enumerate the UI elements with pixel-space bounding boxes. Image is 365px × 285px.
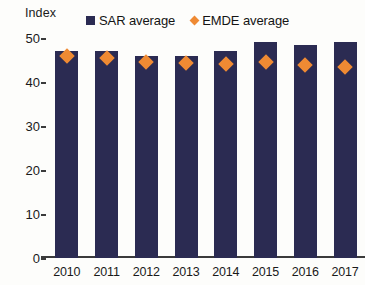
y-axis-tick-label: 0 [0, 251, 40, 266]
y-axis-tick-label: 10 [0, 207, 40, 222]
chart-legend: SAR average EMDE average [86, 13, 289, 28]
chart-container: Index SAR average EMDE average 010203040… [0, 0, 365, 285]
y-axis-tick-mark [41, 38, 46, 40]
legend-label-sar: SAR average [99, 13, 175, 28]
y-axis-tick-mark [41, 82, 46, 84]
legend-item-sar: SAR average [86, 13, 175, 28]
bar-2014 [214, 51, 237, 258]
x-axis-tick-label: 2014 [212, 265, 239, 279]
y-axis-tick-mark [41, 214, 46, 216]
y-axis-title: Index [25, 6, 56, 20]
y-axis-tick-mark [41, 258, 46, 260]
y-axis-tick-mark [41, 126, 46, 128]
bar-2015 [254, 42, 277, 258]
x-axis-tick-label: 2012 [133, 265, 160, 279]
legend-label-emde: EMDE average [202, 13, 289, 28]
legend-item-emde: EMDE average [191, 13, 289, 28]
x-axis-tick-label: 2015 [252, 265, 279, 279]
y-axis-tick-label: 20 [0, 163, 40, 178]
bar-2016 [294, 45, 317, 258]
x-axis-tick-label: 2016 [292, 265, 319, 279]
y-axis-tick-mark [41, 170, 46, 172]
x-axis-tick-label: 2011 [94, 265, 120, 279]
x-axis-tick-label: 2010 [53, 265, 80, 279]
bar-2010 [55, 51, 78, 258]
x-axis-tick-label: 2017 [332, 265, 359, 279]
square-marker-icon [86, 16, 95, 25]
y-axis-tick-label: 30 [0, 119, 40, 134]
y-axis-tick-label: 40 [0, 75, 40, 90]
y-axis-tick-label: 50 [0, 31, 40, 46]
x-axis-tick-label: 2013 [173, 265, 200, 279]
bar-2013 [175, 56, 198, 258]
bar-2012 [135, 56, 158, 258]
bar-2017 [334, 42, 357, 258]
plot-area: 0102030405020102011201220132014201520162… [47, 38, 365, 258]
bar-2011 [95, 51, 118, 258]
diamond-marker-icon [190, 16, 200, 26]
